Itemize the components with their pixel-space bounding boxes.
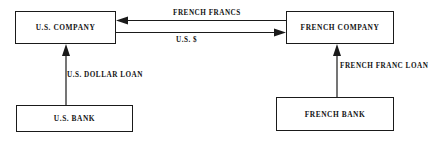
edge-label-french-francs: FRENCH FRANCS	[173, 9, 241, 17]
node-us-bank-label: U.S. BANK	[54, 114, 95, 123]
node-us-bank: U.S. BANK	[16, 105, 133, 132]
edge-french-francs	[116, 17, 286, 25]
currency-swap-diagram: U.S. COMPANY FRENCH COMPANY U.S. BANK FR…	[0, 0, 447, 150]
us-dollars-arrowhead-icon	[274, 29, 286, 37]
edge-us-dollars	[116, 29, 286, 37]
edge-french-franc-loan	[333, 44, 341, 97]
edge-label-french-franc-loan: FRENCH FRANC LOAN	[340, 62, 428, 70]
french-franc-loan-arrowhead-icon	[333, 44, 341, 56]
node-us-company-label: U.S. COMPANY	[36, 23, 96, 32]
edge-label-us-dollars: U.S. $	[176, 36, 197, 44]
node-us-company: U.S. COMPANY	[15, 11, 116, 44]
us-dollar-loan-arrowhead-icon	[62, 44, 70, 56]
node-french-company-label: FRENCH COMPANY	[301, 23, 380, 32]
node-french-bank: FRENCH BANK	[276, 97, 394, 131]
edge-label-us-dollar-loan: U.S. DOLLAR LOAN	[67, 71, 143, 79]
node-french-company: FRENCH COMPANY	[286, 11, 394, 44]
french-francs-arrowhead-icon	[116, 17, 128, 25]
node-french-bank-label: FRENCH BANK	[305, 110, 365, 119]
